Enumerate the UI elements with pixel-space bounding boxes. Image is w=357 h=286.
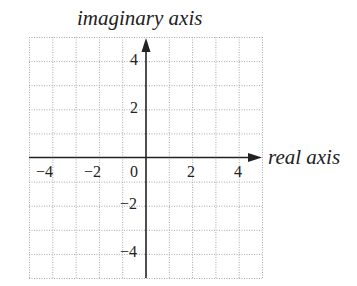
y-tick-label-4: 4 bbox=[130, 51, 138, 69]
x-tick-label-2: 2 bbox=[187, 163, 195, 181]
y-tick-label-2: 2 bbox=[130, 99, 138, 117]
y-tick-label-neg2: −2 bbox=[120, 195, 137, 213]
y-tick-label-neg4: −4 bbox=[120, 243, 137, 261]
x-tick-label-neg4: −4 bbox=[36, 163, 53, 181]
imaginary-axis-title: imaginary axis bbox=[77, 6, 202, 31]
x-tick-label-0: 0 bbox=[130, 163, 138, 181]
complex-plane-graphic bbox=[0, 0, 357, 286]
x-tick-label-neg2: −2 bbox=[84, 163, 101, 181]
real-axis-title: real axis bbox=[268, 145, 340, 170]
x-tick-label-4: 4 bbox=[234, 163, 242, 181]
imaginary-axis-arrow-icon bbox=[142, 38, 151, 52]
real-axis-arrow-icon bbox=[248, 153, 262, 162]
